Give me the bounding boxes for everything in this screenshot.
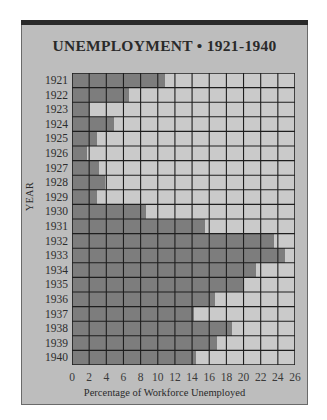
y-tick-label: 1925 <box>28 131 68 146</box>
y-tick-label: 1934 <box>28 263 68 278</box>
bar-row-1940 <box>72 350 295 365</box>
bar-row-1937 <box>72 307 295 322</box>
bar-row-1936 <box>72 292 295 307</box>
bar <box>72 336 217 351</box>
bar-row-1922 <box>72 88 295 103</box>
bar <box>72 350 196 365</box>
bar-row-1939 <box>72 336 295 351</box>
bar <box>72 161 99 176</box>
bar <box>72 204 146 219</box>
bar <box>72 146 87 161</box>
bar-row-1924 <box>72 117 295 132</box>
y-tick-label: 1940 <box>28 350 68 365</box>
bar-row-1927 <box>72 161 295 176</box>
bar <box>72 248 285 263</box>
y-tick-label: 1930 <box>28 204 68 219</box>
bar <box>72 131 97 146</box>
empty-cells <box>72 146 295 161</box>
y-tick-label: 1922 <box>28 88 68 103</box>
bar-row-1932 <box>72 234 295 249</box>
bar <box>72 117 114 132</box>
bar-row-1938 <box>72 321 295 336</box>
y-tick-label: 1932 <box>28 234 68 249</box>
x-axis-label: Percentage of Workforce Unemployed <box>22 387 307 398</box>
bar-row-1935 <box>72 277 295 292</box>
bar <box>72 307 194 322</box>
y-tick-label: 1923 <box>28 102 68 117</box>
y-tick-label: 1924 <box>28 117 68 132</box>
x-tick-label: 26 <box>283 371 307 383</box>
bar <box>72 277 243 292</box>
y-tick-label: 1937 <box>28 307 68 322</box>
y-tick-label: 1931 <box>28 219 68 234</box>
empty-cells <box>72 175 295 190</box>
bar-row-1931 <box>72 219 295 234</box>
chart-panel: UNEMPLOYMENT • 1921-1940 YEAR 1921192219… <box>21 20 308 405</box>
y-tick-label: 1933 <box>28 248 68 263</box>
bar <box>72 88 129 103</box>
bar-grid <box>72 73 295 365</box>
bar <box>72 219 205 234</box>
y-tick-label: 1926 <box>28 146 68 161</box>
bar <box>72 190 97 205</box>
bar-row-1925 <box>72 131 295 146</box>
bar <box>72 73 165 88</box>
bar-row-1930 <box>72 204 295 219</box>
y-tick-label: 1939 <box>28 336 68 351</box>
empty-cells <box>72 102 295 117</box>
panel-top-band <box>21 20 308 25</box>
bar <box>72 321 232 336</box>
y-tick-label: 1928 <box>28 175 68 190</box>
bar-row-1933 <box>72 248 295 263</box>
bar <box>72 234 274 249</box>
empty-cells <box>72 161 295 176</box>
y-tick-label: 1929 <box>28 190 68 205</box>
bar-row-1926 <box>72 146 295 161</box>
bar-row-1921 <box>72 73 295 88</box>
empty-cells <box>72 131 295 146</box>
y-tick-label: 1938 <box>28 321 68 336</box>
bar <box>72 292 215 307</box>
empty-cells <box>72 190 295 205</box>
bar-row-1928 <box>72 175 295 190</box>
chart-title: UNEMPLOYMENT • 1921-1940 <box>22 37 307 55</box>
bar-row-1923 <box>72 102 295 117</box>
bar <box>72 102 90 117</box>
y-tick-label: 1936 <box>28 292 68 307</box>
bar-row-1929 <box>72 190 295 205</box>
y-tick-label: 1935 <box>28 277 68 292</box>
bar <box>72 175 105 190</box>
bar-row-1934 <box>72 263 295 278</box>
y-tick-label: 1921 <box>28 73 68 88</box>
y-tick-label: 1927 <box>28 161 68 176</box>
bar <box>72 263 256 278</box>
